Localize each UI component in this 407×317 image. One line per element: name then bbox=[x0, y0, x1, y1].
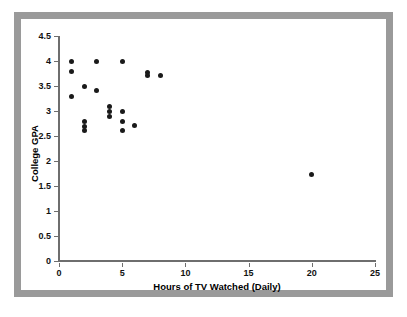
y-axis-line bbox=[58, 36, 60, 262]
y-tick-mark bbox=[54, 61, 58, 62]
y-tick-label: 3.5 bbox=[15, 81, 51, 91]
y-tick-label: 4 bbox=[15, 56, 51, 66]
y-axis-title: College GPA bbox=[29, 94, 40, 214]
data-point bbox=[69, 94, 74, 99]
data-point bbox=[132, 123, 137, 128]
data-point bbox=[120, 128, 125, 133]
y-tick-label: 0 bbox=[15, 256, 51, 266]
x-tick-label: 15 bbox=[244, 268, 254, 278]
x-tick-mark bbox=[185, 263, 186, 267]
y-tick-label: 0.5 bbox=[15, 231, 51, 241]
x-tick-mark bbox=[249, 263, 250, 267]
x-tick-label: 20 bbox=[307, 268, 317, 278]
data-point bbox=[69, 69, 74, 74]
y-tick-mark bbox=[54, 211, 58, 212]
y-tick-mark bbox=[54, 111, 58, 112]
data-point bbox=[309, 172, 314, 177]
scatter-plot: 00.511.522.533.544.5 0510152025 Hours of… bbox=[0, 0, 407, 317]
y-tick-label: 4.5 bbox=[15, 31, 51, 41]
y-tick-mark bbox=[54, 86, 58, 87]
data-point bbox=[107, 114, 112, 119]
x-tick-mark bbox=[375, 263, 376, 267]
data-point bbox=[94, 59, 99, 64]
y-tick-mark bbox=[54, 261, 58, 262]
x-tick-label: 25 bbox=[370, 268, 380, 278]
x-tick-label: 5 bbox=[120, 268, 125, 278]
data-point bbox=[120, 109, 125, 114]
data-point bbox=[107, 109, 112, 114]
data-point bbox=[94, 88, 99, 93]
data-point bbox=[107, 104, 112, 109]
data-point bbox=[82, 84, 87, 89]
x-tick-mark bbox=[312, 263, 313, 267]
y-tick-mark bbox=[54, 186, 58, 187]
y-tick-mark bbox=[54, 161, 58, 162]
x-tick-mark bbox=[122, 263, 123, 267]
data-point bbox=[82, 119, 87, 124]
data-point bbox=[82, 128, 87, 133]
x-tick-label: 0 bbox=[56, 268, 61, 278]
x-axis-line bbox=[58, 260, 376, 262]
y-tick-mark bbox=[54, 36, 58, 37]
data-point bbox=[120, 59, 125, 64]
data-point bbox=[145, 73, 150, 78]
x-axis-title: Hours of TV Watched (Daily) bbox=[58, 281, 376, 292]
x-tick-label: 10 bbox=[180, 268, 190, 278]
y-tick-mark bbox=[54, 136, 58, 137]
x-tick-mark bbox=[59, 263, 60, 267]
y-tick-mark bbox=[54, 236, 58, 237]
data-point bbox=[69, 59, 74, 64]
data-point bbox=[120, 119, 125, 124]
data-point bbox=[158, 73, 163, 78]
